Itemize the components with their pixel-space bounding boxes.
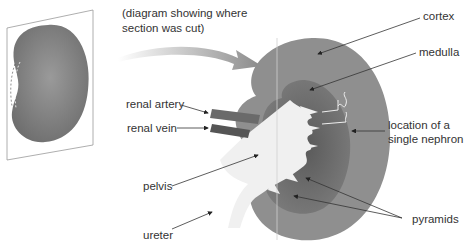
label-cortex: cortex: [423, 10, 454, 23]
label-ureter: ureter: [143, 229, 173, 242]
kidney-section: [220, 38, 390, 240]
label-nephron-line-1: location of a: [388, 119, 450, 132]
label-nephron-line-2: single nephron: [388, 133, 463, 146]
label-pyramids: pyramids: [412, 213, 459, 226]
label-renal-artery: renal artery: [126, 98, 184, 111]
section-arrow: [118, 47, 262, 70]
whole-kidney-inset: [7, 10, 93, 160]
label-pelvis: pelvis: [143, 180, 172, 193]
caption-line-1: (diagram showing where: [122, 7, 247, 20]
label-medulla: medulla: [419, 46, 459, 59]
label-renal-vein: renal vein: [127, 122, 177, 135]
caption-line-2: section was cut): [122, 22, 204, 35]
